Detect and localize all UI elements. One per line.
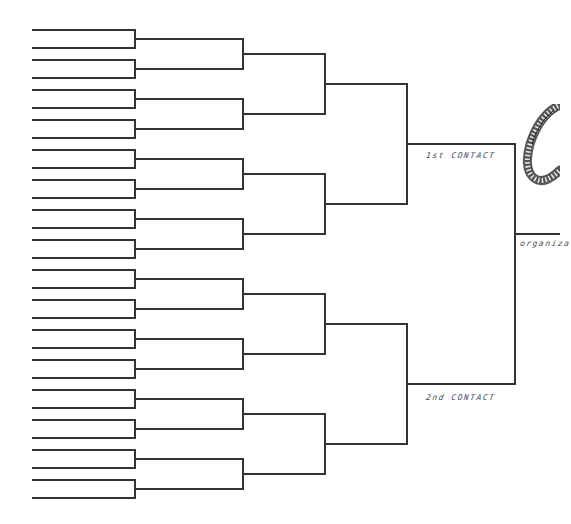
- coiled-cord-icon: [520, 104, 560, 194]
- first-contact-label: 1st CONTACT: [425, 151, 496, 160]
- bracket-lines: [33, 30, 560, 498]
- final-label: organiza: [519, 239, 571, 248]
- second-contact-label: 2nd CONTACT: [425, 393, 496, 402]
